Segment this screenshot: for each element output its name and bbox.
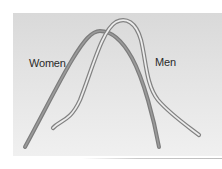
distribution-curves	[0, 0, 222, 169]
bottom-divider	[82, 158, 222, 159]
women-curve	[25, 31, 159, 147]
men-label: Men	[155, 56, 176, 68]
women-label: Women	[29, 57, 66, 69]
men-curve	[53, 20, 199, 135]
